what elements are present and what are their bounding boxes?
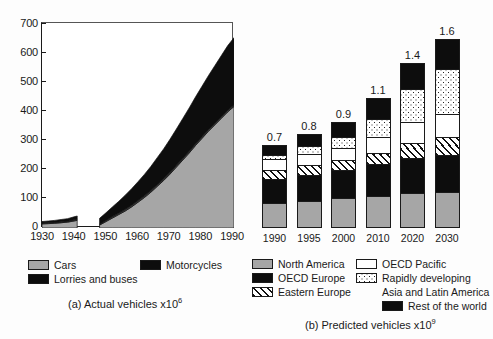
bar-category-label: 1990	[263, 232, 286, 244]
bar-segment-eastern-europe	[367, 153, 390, 164]
bar-category-label: 2010	[366, 232, 389, 244]
bar-value-label: 1.6	[439, 25, 454, 37]
legend-swatch-cars-icon	[28, 260, 49, 270]
bar-segment-oecd-europe	[436, 155, 459, 192]
caption-a-text: (a) Actual vehicles x10	[68, 298, 178, 310]
legend-swatch-motorcycles-icon	[140, 260, 161, 270]
bar-segment-eastern-europe	[332, 160, 355, 170]
bar-segment-rapidly-developing-asia-and-latin-america	[332, 137, 355, 148]
bar-segment-north-america	[401, 193, 424, 227]
legend-label-rapidly-developing: Rapidly developing	[382, 272, 471, 284]
bar-segment-rapidly-developing-asia-and-latin-america	[401, 89, 424, 123]
legend-swatch-north-america-icon	[252, 259, 273, 269]
bar-category-label: 2000	[332, 232, 355, 244]
bar-category-label: 2030	[435, 232, 458, 244]
bar-segment-oecd-europe	[367, 164, 390, 196]
bar-segment-north-america	[436, 192, 459, 227]
bar-segment-rest-of-the-world	[401, 64, 424, 89]
bar-1990[interactable]: 0.71990	[262, 145, 287, 228]
y-axis-tick: 100	[20, 191, 38, 203]
legend-item-cars: Cars	[28, 259, 140, 271]
bar-segment-rapidly-developing-asia-and-latin-america	[298, 146, 321, 155]
bar-segment-oecd-europe	[332, 170, 355, 199]
legend-label-rest-of-the-world: Rest of the world	[408, 300, 487, 312]
bar-value-label: 0.9	[336, 108, 351, 120]
bar-segment-oecd-europe	[401, 158, 424, 193]
legend-item-lorries-and-buses: Lorries and buses	[28, 273, 140, 285]
x-axis-tick: 1940	[62, 230, 86, 242]
bar-segment-oecd-pacific	[401, 122, 424, 142]
bar-segment-oecd-pacific	[263, 159, 286, 170]
bar-segment-rest-of-the-world	[298, 135, 321, 146]
bar-2030[interactable]: 1.62030	[435, 39, 460, 228]
legend-item-oecd-pacific: OECD Pacific	[356, 258, 488, 270]
legend-item-rapidly-developing: Rapidly developing	[356, 272, 488, 284]
bar-segment-oecd-europe	[263, 179, 286, 204]
bar-2020[interactable]: 1.42020	[400, 63, 425, 228]
bar-segment-rapidly-developing-asia-and-latin-america	[367, 119, 390, 137]
x-axis-tick: 1990	[220, 230, 244, 242]
legend-swatch-rest-of-world-icon	[382, 301, 403, 311]
bar-2010[interactable]: 1.12010	[366, 98, 391, 228]
legend-swatch-eastern-europe-icon	[252, 287, 273, 297]
bar-segment-north-america	[367, 196, 390, 227]
bar-segment-rest-of-the-world	[263, 146, 286, 155]
bar-value-label: 1.1	[370, 84, 385, 96]
bar-segment-rapidly-developing-asia-and-latin-america	[436, 69, 459, 114]
plot-area-actual: 700 600 500 400 300 200 100 0 1930 1940 …	[41, 22, 233, 227]
bar-segment-rest-of-the-world	[436, 40, 459, 68]
x-axis-tick: 1950	[93, 230, 117, 242]
legend-item-motorcycles: Motorcycles	[140, 259, 222, 271]
legend-label-oecd-pacific: OECD Pacific	[382, 258, 446, 270]
legend-swatch-oecd-pacific-icon	[356, 259, 377, 269]
bar-segment-rest-of-the-world	[332, 123, 355, 137]
bar-segment-eastern-europe	[263, 170, 286, 179]
bar-segment-north-america	[298, 201, 321, 227]
legend-swatch-rapidly-developing-icon	[356, 273, 377, 283]
bar-2000[interactable]: 0.92000	[331, 122, 356, 228]
bar-segment-north-america	[332, 198, 355, 227]
bar-segment-eastern-europe	[298, 165, 321, 175]
x-axis-tick: 1970	[157, 230, 181, 242]
legend-swatch-lorries-icon	[28, 274, 49, 284]
bar-1995[interactable]: 0.81995	[297, 134, 322, 228]
legend-item-eastern-europe: Eastern Europe	[252, 286, 356, 298]
y-axis-tick: 200	[20, 162, 38, 174]
bar-segment-eastern-europe	[436, 137, 459, 155]
caption-a-exponent: 6	[178, 296, 182, 305]
chart-predicted-vehicles: 0.719900.819950.920001.120101.420201.620…	[250, 0, 493, 260]
bar-segment-oecd-europe	[298, 175, 321, 201]
bar-segment-north-america	[263, 203, 286, 227]
legend-swatch-oecd-europe-icon	[252, 273, 273, 283]
bar-value-label: 1.4	[405, 49, 420, 61]
y-axis-tick: 500	[20, 75, 38, 87]
legend-predicted-vehicles: North America OECD Europe Eastern Europe…	[252, 258, 490, 314]
bar-segment-oecd-pacific	[298, 154, 321, 165]
caption-chart-b: (b) Predicted vehicles x109	[305, 317, 436, 331]
y-axis-tick: 300	[20, 133, 38, 145]
legend-item-oecd-europe: OECD Europe	[252, 272, 356, 284]
x-axis-tick: 1980	[188, 230, 212, 242]
legend-actual-vehicles: Cars Lorries and buses Motorcycles	[28, 259, 243, 287]
legend-item-north-america: North America	[252, 258, 356, 270]
caption-b-text: (b) Predicted vehicles x10	[305, 319, 432, 331]
y-axis-tick: 600	[20, 46, 38, 58]
legend-item-rapidly-developing-line2: Asia and Latin America	[356, 286, 488, 298]
bar-segment-oecd-pacific	[436, 114, 459, 137]
x-axis-tick: 1930	[30, 230, 54, 242]
legend-label-eastern-europe: Eastern Europe	[278, 286, 351, 298]
legend-label-lorries-and-buses: Lorries and buses	[54, 273, 137, 285]
legend-label-oecd-europe: OECD Europe	[278, 272, 345, 284]
caption-b-exponent: 9	[432, 317, 436, 326]
y-axis-tick: 400	[20, 104, 38, 116]
figure-root: 700 600 500 400 300 200 100 0 1930 1940 …	[0, 0, 493, 339]
legend-label-cars: Cars	[54, 259, 76, 271]
bar-value-label: 0.7	[267, 131, 282, 143]
bar-category-label: 2020	[401, 232, 424, 244]
legend-label-rapidly-developing-line2: Asia and Latin America	[382, 286, 489, 298]
x-axis-tick: 1960	[125, 230, 149, 242]
bar-segment-rest-of-the-world	[367, 99, 390, 119]
caption-chart-a: (a) Actual vehicles x106	[68, 296, 182, 310]
y-axis-tick: 700	[20, 17, 38, 29]
bar-segment-eastern-europe	[401, 143, 424, 159]
